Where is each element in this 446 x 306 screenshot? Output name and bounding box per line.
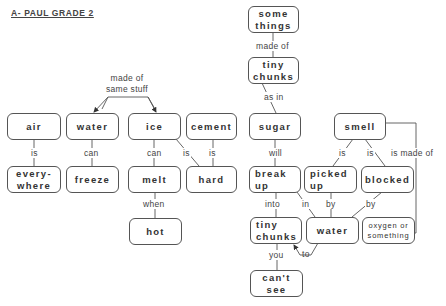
link-air-is: is — [30, 148, 39, 158]
concept-sugar: sugar — [249, 113, 301, 140]
link-cement-is: is — [208, 148, 217, 158]
link-melt-when: when — [142, 199, 166, 209]
concept-air: air — [7, 113, 61, 140]
concept-cant-see: can't see — [250, 270, 303, 297]
link-tiny-you: you — [268, 250, 285, 260]
concept-smell: smell — [334, 113, 386, 140]
link-blocked-by: by — [365, 199, 377, 209]
link-ice-can: can — [146, 148, 163, 158]
link-water-can: can — [83, 148, 100, 158]
link-smell-is-blocked: is — [366, 148, 375, 158]
concept-everywhere: every-where — [7, 166, 61, 193]
concept-hard: hard — [186, 166, 237, 193]
concept-break-up: break up — [249, 166, 301, 193]
link-ice-is: is — [182, 148, 191, 158]
concept-tiny-chunks-top: tiny chunks — [248, 57, 299, 84]
concept-tiny-chunks-bottom: tiny chunks — [250, 217, 302, 244]
link-smell-is-picked: is — [338, 148, 347, 158]
concept-ice: ice — [128, 113, 181, 140]
link-smell-is-made-of: is made of — [390, 148, 434, 158]
link-break-into: into — [264, 199, 281, 209]
link-made-of-same-stuff: made of same stuff — [100, 73, 154, 95]
concept-oxygen-or-something: oxygen or something — [362, 217, 415, 244]
link-water-to: to — [301, 249, 311, 259]
concept-some-things: some things — [248, 6, 299, 33]
concept-freeze: freeze — [66, 166, 119, 193]
link-picked-by: by — [325, 199, 337, 209]
link-as-in: as in — [263, 92, 284, 102]
concept-hot: hot — [129, 218, 182, 245]
concept-water: water — [66, 113, 119, 140]
link-break-in: in — [301, 199, 310, 209]
concept-melt: melt — [128, 166, 181, 193]
concept-water-bottom: water — [306, 217, 359, 244]
concept-picked-up: picked up — [304, 166, 357, 193]
link-made-of: made of — [255, 41, 290, 51]
connector-lines — [0, 0, 446, 306]
concept-cement: cement — [186, 113, 237, 140]
concept-blocked: blocked — [361, 166, 414, 193]
link-sugar-will: will — [268, 148, 283, 158]
